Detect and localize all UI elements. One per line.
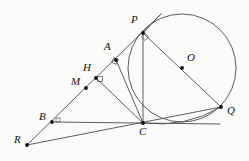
point-label-Q: Q	[227, 105, 235, 116]
point-label-O: O	[187, 52, 195, 63]
point-H	[94, 76, 98, 80]
point-label-B: B	[39, 111, 46, 122]
segment-H-C	[96, 78, 143, 123]
point-label-R: R	[14, 134, 21, 145]
point-O	[180, 66, 184, 70]
point-R	[25, 143, 29, 147]
point-M	[84, 86, 88, 90]
diameter-P-Q	[143, 33, 221, 107]
point-A	[114, 58, 118, 62]
point-label-H: H	[83, 62, 91, 73]
segment-A-C	[116, 60, 143, 123]
point-Q	[219, 105, 223, 109]
point-label-M: M	[71, 76, 80, 87]
point-P	[141, 31, 145, 35]
segment-R-Q	[27, 107, 221, 145]
geometry-figure: POAHMBCQR	[0, 0, 249, 161]
point-label-A: A	[104, 41, 111, 52]
right-angle-at-B	[56, 118, 60, 122]
right-angle-at-B-square	[56, 118, 60, 122]
point-label-P: P	[131, 14, 138, 25]
point-B	[50, 120, 54, 124]
point-label-C: C	[139, 126, 146, 137]
geometry-canvas	[0, 0, 249, 161]
